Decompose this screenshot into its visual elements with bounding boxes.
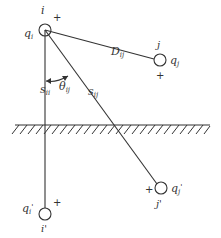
- charge-label-j: qj: [170, 54, 180, 68]
- charge-label-i: qi: [24, 27, 33, 41]
- label-i-image: i': [41, 223, 47, 234]
- charge-i-image-circle: [39, 208, 51, 220]
- charge-diagram: i + qi j qj + Dij θij sii sij qi' + i' +…: [0, 0, 221, 238]
- sign-i: +: [53, 12, 61, 23]
- charge-label-i-image: qi': [22, 202, 34, 216]
- label-j: j: [155, 39, 160, 50]
- label-j-image: j': [154, 198, 162, 209]
- sign-j-image: +: [145, 184, 153, 195]
- s-ij-line: [45, 30, 157, 184]
- label-s-ii: sii: [40, 83, 50, 97]
- d-ij-line: [45, 30, 154, 59]
- sign-j: +: [156, 70, 164, 81]
- charge-label-j-image: qj': [171, 182, 182, 196]
- label-i: i: [41, 4, 45, 17]
- charge-j-image-circle: [155, 182, 167, 194]
- sign-i-image: +: [53, 197, 61, 208]
- charge-j-circle: [154, 54, 166, 66]
- diagram-canvas: i + qi j qj + Dij θij sii sij qi' + i' +…: [0, 0, 221, 238]
- label-theta-ij: θij: [59, 80, 71, 94]
- label-d-ij: Dij: [110, 45, 125, 59]
- ground-hatch: [12, 125, 210, 134]
- label-s-ij: sij: [88, 85, 99, 99]
